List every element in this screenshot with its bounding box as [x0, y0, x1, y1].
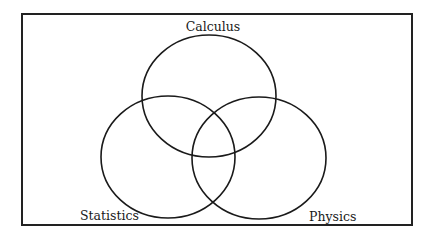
- venn-diagram: Calculus Statistics Physics: [0, 0, 434, 232]
- universe-frame: [22, 14, 412, 225]
- label-statistics: Statistics: [80, 208, 139, 223]
- label-calculus: Calculus: [186, 19, 241, 34]
- label-physics: Physics: [309, 209, 356, 224]
- set-circle-physics: [192, 97, 326, 219]
